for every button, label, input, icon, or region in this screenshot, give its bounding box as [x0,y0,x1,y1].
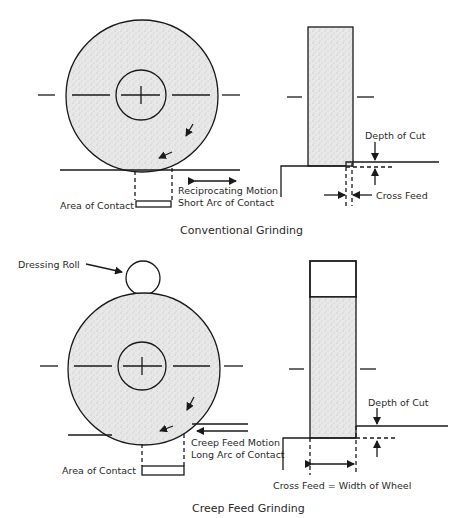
creep-feed-caption: Creep Feed Grinding [192,502,305,515]
creep-cross-feed-label: Cross Feed = Width of Wheel [273,480,411,491]
conventional-wheel-side [281,27,439,206]
creep-depth-of-cut-label: Depth of Cut [368,397,429,408]
conventional-arc-label: Short Arc of Contact [178,197,274,208]
conventional-caption: Conventional Grinding [180,224,303,237]
creep-arc-label: Long Arc of Contact [191,449,285,460]
creep-motion-label: Creep Feed Motion [191,437,280,448]
conventional-depth-of-cut-label: Depth of Cut [365,130,426,141]
dressing-roll-label: Dressing Roll [18,259,80,270]
creep-feed-wheel-side [283,261,448,475]
creep-area-of-contact-label: Area of Contact [62,465,136,476]
conventional-cross-feed-label: Cross Feed [376,190,428,201]
conventional-wheel-front [38,20,240,207]
conventional-motion-label: Reciprocating Motion [178,185,278,196]
conventional-area-of-contact-label: Area of Contact [60,200,134,211]
grinding-diagram: Area of Contact Reciprocating Motion Sho… [0,0,468,518]
